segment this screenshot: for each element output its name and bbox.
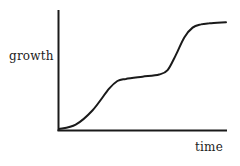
growth-curve — [59, 22, 226, 129]
growth-time-diagram: growth time — [0, 0, 240, 166]
plot-area — [0, 0, 240, 166]
